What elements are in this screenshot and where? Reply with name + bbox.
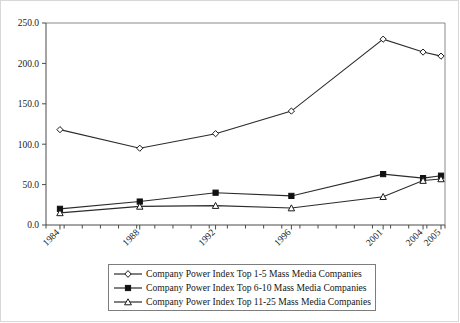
x-tick-label: 1992 xyxy=(196,227,217,248)
data-point xyxy=(289,193,294,198)
x-axis-ticks xyxy=(46,225,445,230)
data-point xyxy=(420,49,426,55)
legend-marker-filled-square-icon xyxy=(113,282,143,294)
x-tick-label: 2004 xyxy=(404,227,425,248)
data-point xyxy=(381,171,386,176)
plot-frame xyxy=(46,23,445,225)
x-tick-label: 1988 xyxy=(121,227,142,248)
data-series-layer xyxy=(57,36,444,216)
data-point xyxy=(212,131,218,137)
legend-item-top-6-10[interactable]: Company Power Index Top 6-10 Mass Media … xyxy=(113,281,371,295)
series-1 xyxy=(57,36,444,151)
x-tick-label: 1996 xyxy=(272,227,293,248)
x-tick-label: 2005 xyxy=(422,227,443,248)
y-tick-label: 250.0 xyxy=(18,18,40,28)
data-point xyxy=(137,145,143,151)
series-line xyxy=(60,39,441,148)
chart-legend: Company Power Index Top 1-5 Mass Media C… xyxy=(108,264,376,311)
legend-item-top-1-5[interactable]: Company Power Index Top 1-5 Mass Media C… xyxy=(113,267,371,281)
series-3 xyxy=(57,176,444,216)
data-point xyxy=(57,127,63,133)
y-axis-tick-labels: 0.050.0100.0150.0200.0250.0 xyxy=(18,18,40,230)
series-2 xyxy=(57,171,443,211)
y-tick-label: 0.0 xyxy=(27,220,39,230)
y-tick-label: 150.0 xyxy=(18,99,40,109)
legend-item-top-11-25[interactable]: Company Power Index Top 11-25 Mass Media… xyxy=(113,295,371,309)
data-point xyxy=(438,53,444,59)
legend-label-top-1-5: Company Power Index Top 1-5 Mass Media C… xyxy=(146,268,362,280)
data-point xyxy=(213,190,218,195)
x-axis-tick-labels: 1984198819921996200120042005 xyxy=(41,227,443,248)
x-tick-label: 2001 xyxy=(364,227,385,248)
chart-container: 0.050.0100.0150.0200.0250.0 198419881992… xyxy=(0,0,460,323)
y-axis-ticks xyxy=(42,23,46,225)
legend-label-top-6-10: Company Power Index Top 6-10 Mass Media … xyxy=(146,282,367,294)
y-tick-label: 100.0 xyxy=(18,140,40,150)
y-tick-label: 200.0 xyxy=(18,59,40,69)
y-tick-label: 50.0 xyxy=(22,180,39,190)
plot-axes xyxy=(46,23,445,225)
x-tick-label: 1984 xyxy=(41,227,62,248)
series-line xyxy=(60,174,441,209)
legend-label-top-11-25: Company Power Index Top 11-25 Mass Media… xyxy=(146,296,371,308)
legend-marker-open-diamond-icon xyxy=(113,268,143,280)
legend-marker-open-triangle-icon xyxy=(113,296,143,308)
